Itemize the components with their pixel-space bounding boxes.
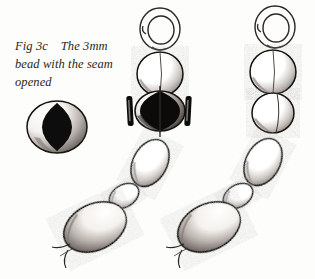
figure-caption: Fig 3c The 3mm bead with the seam opened [15, 38, 140, 91]
round-bead-second [252, 93, 294, 133]
round-bead-top [250, 50, 296, 94]
caption-line-1: Fig 3c The 3mm [15, 38, 140, 56]
figure-illustration: Fig 3c The 3mm bead with the seam opened [0, 0, 315, 279]
bead-outline [252, 93, 294, 133]
caption-line-2: bead with the seam [15, 56, 140, 74]
caption-line-3: opened [15, 74, 140, 92]
bead-outline [250, 50, 296, 94]
opened-seam-bead-detail [27, 101, 87, 153]
